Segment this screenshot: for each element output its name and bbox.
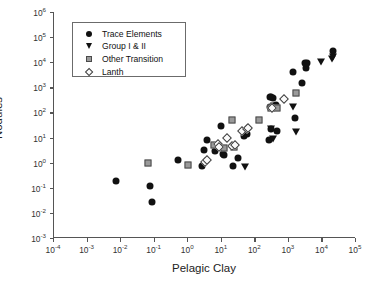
x-tick-mark [120, 238, 121, 242]
legend-item[interactable]: Trace Elements [79, 28, 181, 40]
legend-item-label: Group I & II [99, 41, 146, 51]
data-point-square [292, 89, 299, 96]
y-tick-label: 103 [14, 82, 46, 92]
data-point-triangle-down [241, 164, 249, 171]
data-point-circle [147, 182, 154, 189]
y-tick-label: 102 [14, 107, 46, 117]
x-tick-mark [154, 238, 155, 242]
y-tick-label: 105 [14, 32, 46, 42]
data-point-circle [298, 79, 305, 86]
data-point-diamond [279, 94, 289, 104]
data-point-circle [112, 177, 119, 184]
legend-item-label: Lanth [99, 67, 124, 77]
x-tick-label: 102 [248, 244, 261, 254]
data-point-square [145, 159, 152, 166]
x-axis-label: Pelagic Clay [53, 262, 355, 274]
data-point-triangle-down [267, 125, 275, 132]
diamond-icon [79, 69, 99, 75]
data-point-circle [269, 94, 276, 101]
data-point-circle [289, 69, 296, 76]
x-tick-label: 103 [281, 244, 294, 254]
x-tick-mark [87, 238, 88, 242]
y-tick-label: 101 [14, 132, 46, 142]
data-point-triangle-down [317, 59, 325, 66]
x-tick-mark [355, 238, 356, 242]
legend-item[interactable]: Other Transition [79, 53, 181, 65]
data-point-square [256, 117, 263, 124]
data-point-circle [234, 155, 241, 162]
y-tick-label: 106 [14, 7, 46, 17]
x-tick-mark [53, 238, 54, 242]
data-point-circle [303, 59, 310, 66]
data-point-circle [220, 152, 227, 159]
circle-icon [79, 31, 99, 37]
data-point-circle [203, 136, 210, 143]
data-point-square [185, 162, 192, 169]
legend-item[interactable]: Group I & II [79, 41, 181, 53]
y-axis-label: Nodules [0, 97, 4, 139]
x-tick-mark [221, 238, 222, 242]
x-tick-mark [254, 238, 255, 242]
y-tick-label: 100 [14, 158, 46, 168]
data-point-triangle-down [292, 128, 300, 135]
data-point-circle [175, 156, 182, 163]
legend-item-label: Trace Elements [99, 29, 162, 39]
x-tick-label: 10-4 [46, 244, 61, 254]
data-point-circle [201, 146, 208, 153]
x-tick-mark [288, 238, 289, 242]
y-tick-label: 10-3 [14, 233, 46, 243]
x-tick-label: 100 [181, 244, 194, 254]
y-tick-label: 10-2 [14, 208, 46, 218]
legend-item[interactable]: Lanth [79, 66, 181, 78]
y-tick-label: 104 [14, 57, 46, 67]
x-tick-mark [321, 238, 322, 242]
data-point-triangle-down [289, 103, 297, 110]
legend-item-label: Other Transition [99, 54, 163, 64]
data-point-circle [149, 199, 156, 206]
x-tick-mark [187, 238, 188, 242]
x-tick-label: 104 [315, 244, 328, 254]
triangle-down-icon [79, 43, 99, 49]
x-tick-label: 105 [349, 244, 362, 254]
data-point-circle [229, 162, 236, 169]
data-point-circle [291, 115, 298, 122]
chart-legend: Trace ElementsGroup I & IIOther Transiti… [72, 22, 186, 77]
square-icon [79, 56, 99, 62]
x-tick-label: 10-2 [113, 244, 128, 254]
x-tick-label: 10-1 [146, 244, 161, 254]
data-point-circle [218, 122, 225, 129]
scatter-chart-figure: Nodules Pelagic Clay 1061051041031021011… [0, 0, 377, 286]
data-point-triangle-down [269, 135, 277, 142]
data-point-square [228, 117, 235, 124]
data-point-triangle-down [329, 54, 337, 61]
y-tick-label: 10-1 [14, 183, 46, 193]
x-tick-label: 101 [214, 244, 227, 254]
x-tick-label: 10-3 [79, 244, 94, 254]
